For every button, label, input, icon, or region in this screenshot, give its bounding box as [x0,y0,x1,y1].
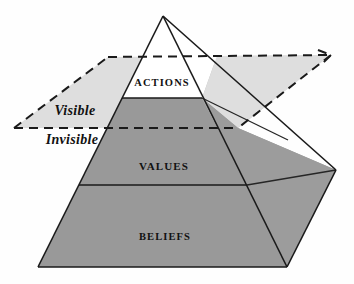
tier-label-values: VALUES [139,160,189,172]
plane-label-visible: Visible [55,103,96,118]
pyramid-diagram: ACTIONS VALUES BELIEFS Visible Invisible [0,0,354,284]
tier-label-actions: ACTIONS [134,77,190,88]
tier-beliefs-fill [38,185,287,267]
pyramid-illustration: ACTIONS VALUES BELIEFS Visible Invisible [0,0,354,284]
tier-label-beliefs: BELIEFS [139,231,191,242]
plane-label-invisible: Invisible [45,132,98,147]
